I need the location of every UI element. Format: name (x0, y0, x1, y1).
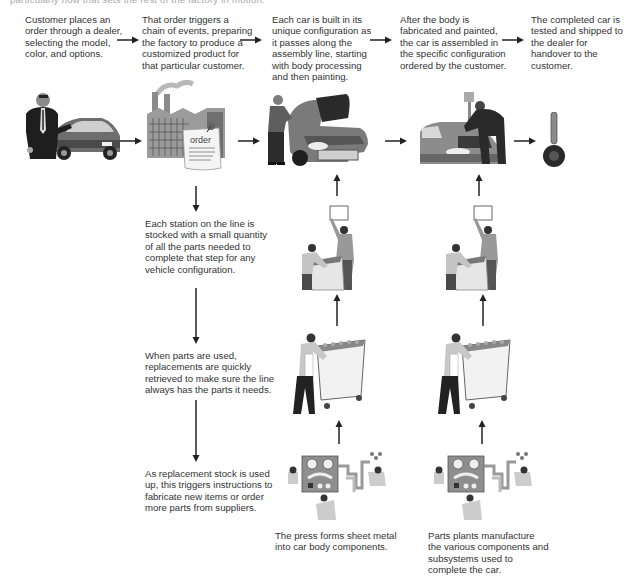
factory-with-order-illustration: order (145, 80, 235, 172)
worker-with-cart-illustration (291, 326, 375, 418)
parts-machine-illustration (432, 448, 536, 522)
workers-at-station-illustration (438, 200, 510, 292)
reorder-text: As replacement stock is used up, this tr… (145, 468, 275, 514)
arrow-up-icon (479, 294, 487, 326)
arrow-up-icon (333, 294, 341, 326)
arrow-up-icon (333, 174, 341, 196)
arrow-right-icon (385, 137, 407, 145)
arrow-right-icon (370, 36, 392, 44)
step-order-text: That order triggers a chain of events, p… (142, 14, 254, 71)
arrow-down-icon (192, 288, 200, 344)
order-label: order (190, 135, 211, 145)
step-customer-text: Customer places an order through a deale… (25, 14, 123, 60)
worker-assembling-car-illustration (418, 92, 518, 172)
arrow-up-icon (475, 174, 483, 196)
dealer-with-car-illustration (22, 92, 122, 167)
arrow-right-icon (117, 36, 139, 44)
arrow-down-icon (192, 400, 200, 462)
arrow-down-icon (192, 186, 200, 212)
worker-with-cart-illustration (436, 326, 520, 418)
arrow-right-icon (238, 137, 260, 145)
arrow-up-icon (478, 420, 486, 444)
cropped-header-text: particularly how that sets the rest of t… (10, 0, 265, 5)
replacement-text: When parts are used, replacements are qu… (145, 350, 275, 396)
press-machine-illustration (286, 448, 390, 522)
step-assembly-text: After the body is fabricated and painted… (400, 14, 510, 71)
arrow-up-icon (335, 420, 343, 444)
step-handover-text: The completed car is tested and shipped … (531, 14, 623, 71)
station-text: Each station on the line is stocked with… (145, 218, 271, 275)
step-body-text: Each car is built in its unique configur… (272, 14, 372, 82)
arrow-right-icon (240, 36, 262, 44)
car-key-icon (542, 112, 566, 168)
press-text: The press forms sheet metal into car bod… (275, 530, 400, 553)
arrow-right-icon (514, 137, 536, 145)
arrow-right-icon (120, 137, 142, 145)
worker-at-car-body-illustration (264, 92, 374, 172)
arrow-right-icon (502, 36, 524, 44)
parts-plant-text: Parts plants manufacture the various com… (428, 530, 550, 576)
workers-at-station-illustration (294, 200, 366, 292)
